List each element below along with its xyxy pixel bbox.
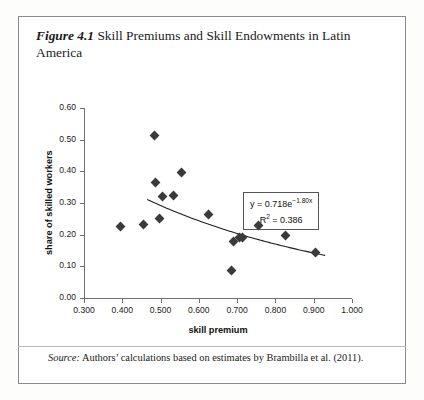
source-text: Authors’ calculations based on estimates… (80, 352, 363, 363)
equation-exponent: −1.80x (292, 197, 312, 204)
x-axis-tick (122, 299, 123, 303)
y-axis-tick (80, 235, 84, 236)
figure-page: Figure 4.1 Skill Premiums and Skill Endo… (0, 0, 424, 400)
x-axis-tick (84, 299, 85, 303)
data-point-marker (138, 220, 148, 230)
y-axis-tick-label: 0.30 (42, 197, 76, 207)
y-axis-tick (80, 108, 84, 109)
x-axis-tick (275, 299, 276, 303)
data-point-marker (168, 190, 178, 200)
equation-expression: y = 0.718e (250, 199, 292, 209)
y-axis-tick (80, 203, 84, 204)
data-point-marker (203, 209, 213, 219)
x-axis-tick (237, 299, 238, 303)
data-point-marker (115, 222, 125, 232)
source-note: Source: Authors’ calculations based on e… (48, 352, 388, 363)
y-axis-tick-label: 0.10 (42, 260, 76, 270)
x-axis-line (84, 298, 352, 299)
equation-line-1: y = 0.718e−1.80x (250, 195, 312, 211)
r-squared-value: = 0.386 (270, 215, 303, 225)
data-point-marker (226, 265, 236, 275)
data-point-marker (151, 177, 161, 187)
x-axis-tick (161, 299, 162, 303)
source-label: Source: (48, 352, 80, 363)
x-axis-tick (199, 299, 200, 303)
data-point-marker (158, 191, 168, 201)
x-axis-tick-label: 1.000 (330, 305, 374, 315)
y-axis-tick (80, 266, 84, 267)
y-axis-tick (80, 171, 84, 172)
data-point-marker (154, 213, 164, 223)
y-axis-tick (80, 140, 84, 141)
y-axis-tick-label: 0.20 (42, 229, 76, 239)
y-axis-tick-label: 0.50 (42, 134, 76, 144)
x-axis-tick (314, 299, 315, 303)
data-point-marker (311, 248, 321, 258)
x-axis-title: skill premium (84, 325, 352, 335)
data-point-marker (280, 230, 290, 240)
source-divider (18, 346, 406, 347)
scatter-chart: share of skilled workers skill premium y… (0, 0, 424, 400)
data-point-marker (177, 168, 187, 178)
data-point-marker (150, 131, 160, 141)
y-axis-tick-label: 0.00 (42, 292, 76, 302)
y-axis-tick-label: 0.60 (42, 102, 76, 112)
x-axis-tick (352, 299, 353, 303)
y-axis-tick-label: 0.40 (42, 165, 76, 175)
y-axis-line (84, 108, 85, 298)
